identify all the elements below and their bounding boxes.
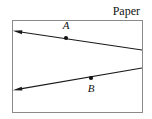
point-b-label: B bbox=[88, 82, 95, 94]
point-a-dot bbox=[64, 36, 68, 40]
paper-region-label: Paper bbox=[113, 4, 140, 18]
diagram-canvas: A B Paper bbox=[0, 0, 152, 119]
point-b-dot bbox=[89, 76, 93, 80]
point-a-label: A bbox=[62, 19, 70, 31]
paper-diagram-figure: A B Paper bbox=[0, 0, 152, 119]
